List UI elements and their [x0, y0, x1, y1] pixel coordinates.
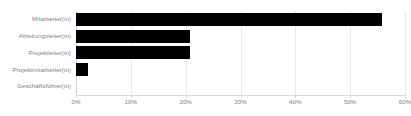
x-axis-tick-labels: 0% 10% 20% 30% 40% 50% 60% — [0, 99, 411, 111]
bar-row — [76, 78, 405, 95]
category-label: Mitarbeiter(in) — [0, 11, 74, 28]
category-label: Geschäftsführer(in) — [0, 78, 74, 95]
x-tick-label: 40% — [289, 99, 301, 105]
x-tick-label: 50% — [344, 99, 356, 105]
x-tick-label: 30% — [234, 99, 246, 105]
bar-row — [76, 45, 405, 62]
bar-projektmitarbeiter — [76, 63, 88, 76]
x-tick-label: 60% — [399, 99, 411, 105]
bar-series — [76, 11, 405, 95]
category-label: Projektleiter(in) — [0, 45, 74, 62]
gridline-60 — [405, 11, 406, 95]
bar-row — [76, 28, 405, 45]
bar-chart: Mitarbeiter(in) Abteilungsleiter(in) Pro… — [0, 0, 411, 116]
x-tick-label: 20% — [179, 99, 191, 105]
bar-mitarbeiter — [76, 13, 382, 26]
x-tick-label: 10% — [125, 99, 137, 105]
category-label: Projektmitarbeiter(in) — [0, 61, 74, 78]
bar-abteilungsleiter — [76, 30, 190, 43]
bar-row — [76, 11, 405, 28]
plot-area — [76, 11, 405, 95]
bar-projektleiter — [76, 46, 190, 59]
category-axis-labels: Mitarbeiter(in) Abteilungsleiter(in) Pro… — [0, 11, 74, 95]
category-label: Abteilungsleiter(in) — [0, 28, 74, 45]
x-tick-label: 0% — [72, 99, 81, 105]
bar-row — [76, 61, 405, 78]
